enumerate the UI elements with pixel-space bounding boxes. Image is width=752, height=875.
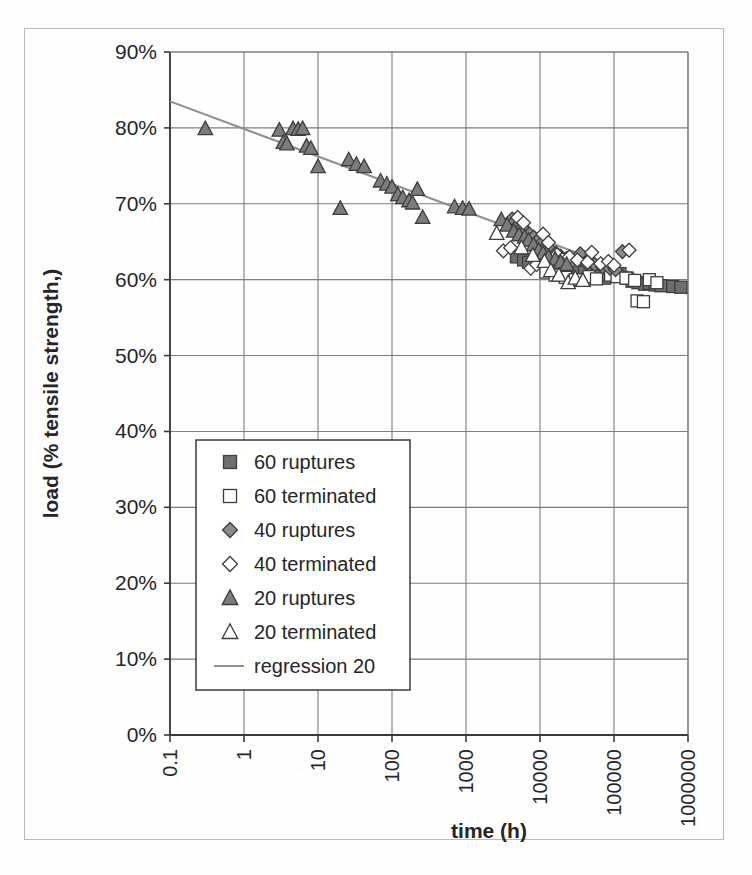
x-axis-tick-label: 100000: [603, 749, 625, 816]
y-axis-tick-label: 0%: [127, 723, 157, 746]
y-axis-tick-label: 30%: [115, 495, 157, 518]
y-axis-title: load (% tensile strength,): [39, 269, 62, 519]
data-point-triangle: [416, 210, 430, 224]
data-point-triangle: [272, 123, 286, 137]
legend-label: regression 20: [254, 655, 375, 677]
data-point-square: [224, 456, 237, 469]
x-axis-title: time (h): [451, 819, 527, 842]
data-point-square: [224, 490, 237, 503]
legend: 60 ruptures60 terminated40 ruptures40 te…: [196, 440, 410, 690]
y-axis-tick-label: 50%: [115, 344, 157, 367]
data-point-square: [629, 274, 641, 286]
y-axis-tick-labels: 0%10%20%30%40%50%60%70%80%90%: [115, 40, 157, 746]
y-axis-tick-label: 40%: [115, 419, 157, 442]
data-point-square: [675, 281, 687, 293]
y-axis-tick-label: 20%: [115, 571, 157, 594]
y-axis-tick-label: 60%: [115, 268, 157, 291]
legend-label: 40 ruptures: [254, 519, 355, 541]
data-point-triangle: [311, 159, 325, 173]
x-axis-tick-label: 100: [381, 749, 403, 782]
legend-label: 60 terminated: [254, 485, 376, 507]
x-axis-tick-label: 1000: [455, 749, 477, 794]
x-axis-tick-label: 1: [233, 749, 255, 760]
y-axis-tick-label: 70%: [115, 192, 157, 215]
legend-label: 20 terminated: [254, 621, 376, 643]
data-point-triangle: [333, 201, 347, 215]
data-point-triangle: [410, 182, 424, 196]
y-axis-tick-label: 10%: [115, 647, 157, 670]
data-point-square: [637, 296, 649, 308]
legend-label: 20 ruptures: [254, 587, 355, 609]
legend-label: 40 terminated: [254, 553, 376, 575]
y-axis-tick-label: 80%: [115, 116, 157, 139]
data-point-square: [651, 277, 663, 289]
creep-rupture-scatter-chart: 0%10%20%30%40%50%60%70%80%90%0.111010010…: [0, 0, 752, 875]
x-axis-tick-label: 0.1: [159, 749, 181, 777]
legend-label: 60 ruptures: [254, 451, 355, 473]
x-axis-tick-label: 10000: [529, 749, 551, 805]
scanned-page: 0%10%20%30%40%50%60%70%80%90%0.111010010…: [0, 0, 752, 875]
x-axis-tick-label: 10: [307, 749, 329, 771]
x-axis-tick-label: 1000000: [677, 749, 699, 827]
data-point-square: [590, 273, 602, 285]
y-axis-tick-label: 90%: [115, 40, 157, 63]
x-axis-tick-labels: 0.11101001000100001000001000000: [159, 749, 699, 827]
